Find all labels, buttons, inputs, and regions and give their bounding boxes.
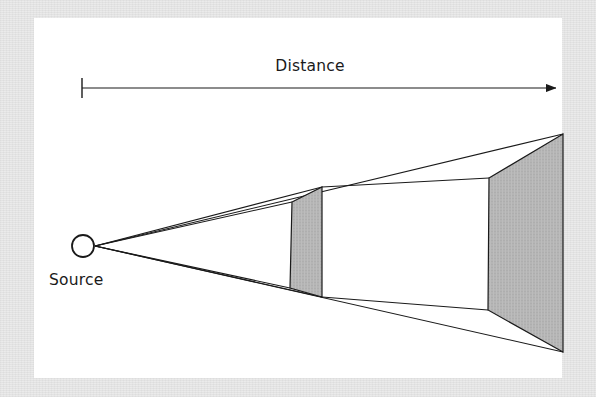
point-source-icon (72, 235, 94, 257)
top-connector (322, 178, 489, 187)
near-panel-top-ray (95, 187, 322, 246)
diagram-svg: Distance Source (0, 0, 596, 397)
distance-axis-group: Distance (82, 57, 556, 98)
near-panel (290, 187, 322, 297)
source-group: Source (49, 235, 103, 289)
far-panel (488, 134, 563, 352)
upper-inner-ray (95, 202, 292, 246)
source-label: Source (49, 271, 103, 289)
near-panel-bottom-ray (95, 246, 322, 297)
panel-connectors-group (322, 178, 489, 310)
distance-label: Distance (275, 57, 344, 75)
figure-root: Distance Source (0, 0, 596, 397)
